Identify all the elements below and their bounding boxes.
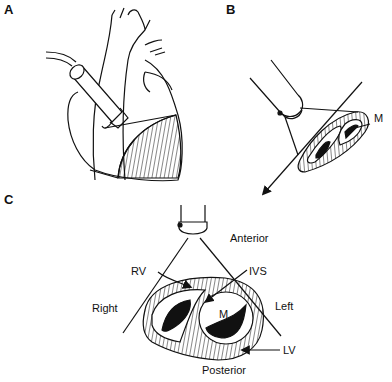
panel-b-sector-illustration (250, 60, 370, 192)
panel-a-heart-illustration (46, 8, 182, 181)
label-posterior: Posterior (202, 364, 246, 376)
panel-label-b: B (226, 2, 235, 17)
panel-label-c: C (4, 192, 13, 207)
panel-label-a: A (4, 2, 13, 17)
label-anterior: Anterior (230, 232, 269, 244)
panel-c-cross-section (123, 205, 281, 360)
label-lv: LV (283, 344, 296, 356)
label-b-mitral: M (374, 112, 383, 124)
label-ivs: IVS (249, 265, 267, 277)
figure-canvas (0, 0, 392, 382)
label-right: Right (92, 302, 118, 314)
label-left: Left (275, 300, 293, 312)
label-rv: RV (131, 265, 146, 277)
label-c-mitral: M (219, 308, 228, 320)
